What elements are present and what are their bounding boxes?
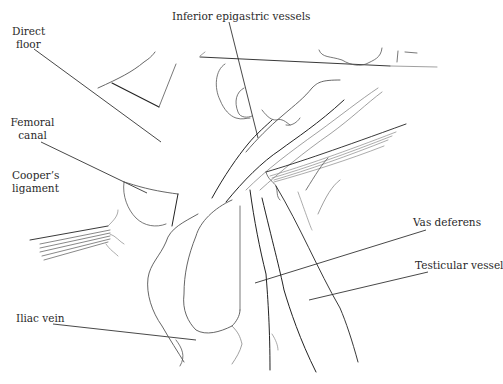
label-coopers-ligament: Cooper’s ligament xyxy=(12,169,59,195)
label-direct-floor-line2: floor xyxy=(12,38,45,51)
label-direct-floor-line1: Direct xyxy=(12,25,45,38)
label-iliac-vein: Iliac vein xyxy=(16,312,65,325)
leader-lines xyxy=(34,22,428,340)
leader-iliac-vein xyxy=(53,324,196,340)
label-femoral-canal-line2: canal xyxy=(10,129,55,142)
label-inferior-epigastric-vessels: Inferior epigastric vessels xyxy=(172,10,310,23)
label-inferior-epigastric-line1: Inferior epigastric vessels xyxy=(172,10,310,23)
label-coopers-ligament-line1: Cooper’s xyxy=(12,169,59,182)
peritoneal-edge xyxy=(200,48,437,67)
label-iliac-vein-line1: Iliac vein xyxy=(16,312,65,325)
label-femoral-canal-line1: Femoral xyxy=(10,116,55,129)
label-vas-deferens-line1: Vas deferens xyxy=(413,216,481,229)
epigastric-bulges xyxy=(212,64,382,202)
label-femoral-canal: Femoral canal xyxy=(10,116,55,142)
fibrous-bundle-left xyxy=(30,210,124,260)
label-direct-floor: Direct floor xyxy=(12,25,45,51)
leader-testicular-vessel xyxy=(309,272,428,300)
leader-inferior-epigastric xyxy=(229,22,258,138)
vessel-bundle-right xyxy=(266,124,406,214)
coopers-ligament-region xyxy=(124,182,178,226)
cord-structures xyxy=(250,186,358,372)
label-testicular-vessel-line1: Testicular vessel xyxy=(415,259,503,272)
iliac-vein-outline xyxy=(148,200,242,366)
label-vas-deferens: Vas deferens xyxy=(413,216,481,229)
label-testicular-vessel: Testicular vessel xyxy=(415,259,503,272)
direct-floor-fold xyxy=(98,52,205,107)
label-coopers-ligament-line2: ligament xyxy=(12,182,59,195)
